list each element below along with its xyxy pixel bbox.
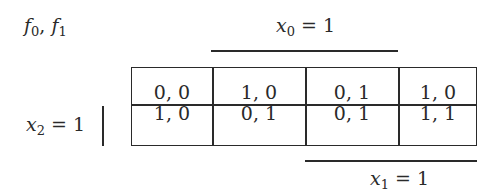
cell-r1-c3: 1, 1: [399, 103, 477, 123]
cell-r0-c0: 0, 0: [132, 82, 212, 102]
cell-r1-c2: 0, 1: [306, 103, 398, 123]
x1-bracket-line: [305, 160, 477, 162]
x2-eq: = 1: [45, 113, 85, 135]
payoff-grid: 0, 0 1, 0 0, 1 1, 0 1, 0 0, 1 0, 1 1, 1: [131, 67, 477, 146]
cell-r0-c1: 1, 0: [213, 82, 305, 102]
x1-label: x1 = 1: [370, 167, 429, 192]
x0-eq: = 1: [295, 14, 335, 36]
x0-var: x: [276, 14, 287, 36]
x2-var: x: [26, 113, 37, 135]
cell-r1-c0: 1, 0: [132, 103, 212, 123]
cell-r1-c1: 0, 1: [213, 103, 305, 123]
x0-sub: 0: [287, 24, 295, 39]
cell-r0-c3: 1, 0: [399, 82, 477, 102]
x0-bracket-line: [211, 50, 398, 52]
x2-bracket-line: [102, 106, 104, 146]
f1-subscript: 1: [58, 24, 66, 39]
cell-r0-c2: 0, 1: [306, 82, 398, 102]
x1-sub: 1: [381, 177, 389, 192]
x1-var: x: [370, 167, 381, 189]
x2-sub: 2: [37, 123, 45, 138]
function-labels: f0, f1: [24, 14, 67, 39]
separator: ,: [39, 14, 51, 36]
x2-label: x2 = 1: [26, 113, 85, 138]
x0-label: x0 = 1: [276, 14, 335, 39]
x1-eq: = 1: [389, 167, 429, 189]
f0-symbol: f: [24, 14, 31, 36]
